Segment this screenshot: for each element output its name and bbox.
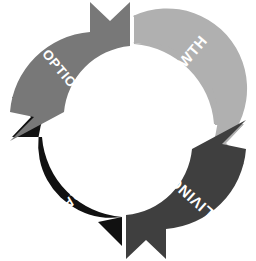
cycle-diagram: GROWTH LIVING CRAP OPTION 3 xyxy=(0,0,256,261)
cycle-center-hole xyxy=(88,90,168,170)
